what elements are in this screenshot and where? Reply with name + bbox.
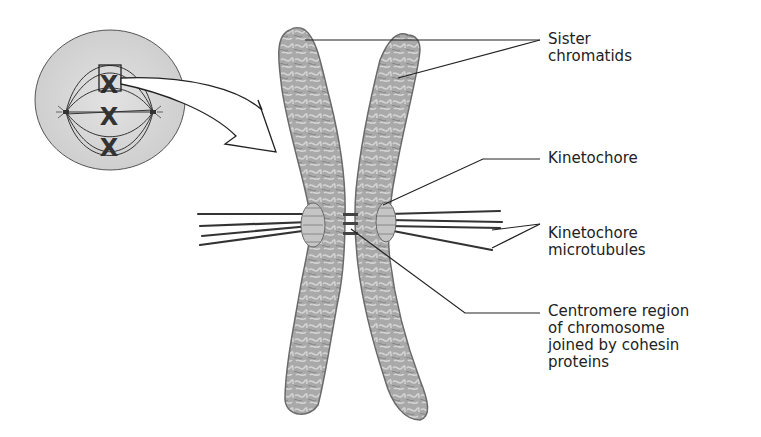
svg-text:X: X bbox=[100, 71, 119, 99]
chromosome-diagram: X X X bbox=[0, 0, 761, 437]
label-centromere-region: Centromere region of chromosome joined b… bbox=[548, 303, 689, 371]
label-sister-chromatids: Sister chromatids bbox=[548, 31, 632, 65]
inset-chromosomes: X X X bbox=[100, 71, 119, 162]
svg-text:X: X bbox=[100, 103, 119, 131]
metaphase-cell-inset: X X X bbox=[35, 30, 276, 170]
label-kinetochore-microtubules: Kinetochore microtubules bbox=[548, 225, 646, 259]
kinetochore-microtubules bbox=[198, 211, 502, 250]
label-kinetochore: Kinetochore bbox=[548, 150, 638, 167]
svg-text:X: X bbox=[100, 134, 119, 162]
